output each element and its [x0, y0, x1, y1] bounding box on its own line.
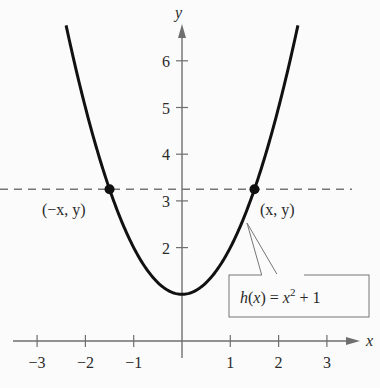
- y-tick-label: 2: [162, 240, 170, 257]
- point-label-right: (x, y): [260, 201, 295, 219]
- x-tick-label: −1: [125, 354, 142, 371]
- y-axis-arrow-icon: [178, 24, 186, 38]
- callout-pointer-edge: [247, 223, 262, 276]
- x-tick-label: 1: [226, 354, 234, 371]
- x-tick-label: −2: [77, 354, 94, 371]
- y-tick-label: 4: [162, 146, 170, 163]
- y-tick-label: 5: [162, 100, 170, 117]
- function-label: h(x) = x2 + 1: [240, 286, 320, 307]
- parabola-chart: xy−3−2−112323456(−x, y)(x, y)h(x) = x2 +…: [0, 0, 380, 388]
- y-tick-label: 6: [162, 53, 170, 70]
- x-tick-label: −3: [29, 354, 46, 371]
- chart-container: xy−3−2−112323456(−x, y)(x, y)h(x) = x2 +…: [0, 0, 380, 388]
- callout-pointer: [247, 223, 304, 276]
- point-marker: [249, 184, 259, 194]
- x-axis-label: x: [365, 332, 373, 349]
- x-tick-label: 3: [323, 354, 331, 371]
- y-axis-label: y: [173, 4, 183, 22]
- point-label-left: (−x, y): [42, 201, 86, 219]
- point-marker: [105, 184, 115, 194]
- y-tick-label: 3: [162, 193, 170, 210]
- x-tick-label: 2: [275, 354, 283, 371]
- x-axis-arrow-icon: [346, 337, 360, 345]
